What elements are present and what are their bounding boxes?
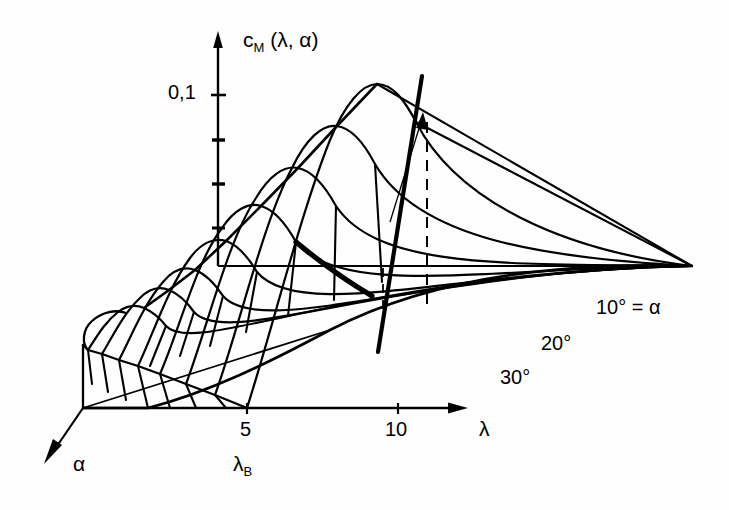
- vertical-axis: [211, 31, 226, 266]
- figure-canvas: cM (λ, α) 0,1 5 10 λ λB α 10° = α 20° 30…: [0, 0, 729, 510]
- lambda-b-main: λ: [233, 452, 244, 475]
- vanishing-rays: [377, 84, 692, 266]
- operating-line: [378, 76, 422, 352]
- hump-alpha-10: [247, 84, 692, 408]
- y-axis-title-main: c: [243, 28, 254, 51]
- lambda-b-sub: B: [244, 464, 253, 479]
- y-axis-title-sub: M: [254, 40, 265, 55]
- y-tick-label-0-1: 0,1: [168, 81, 196, 104]
- surface-mesh: [83, 84, 692, 408]
- back-cap: [84, 311, 126, 350]
- angle-label-30: 30°: [500, 366, 530, 389]
- hump-alpha-15: [215, 126, 692, 395]
- angle-label-20: 20°: [541, 332, 571, 355]
- lambda-b-label: λB: [233, 452, 252, 479]
- x-tick-label-10: 10: [385, 418, 407, 441]
- y-axis-title-args: (λ, α): [264, 28, 318, 51]
- surface-plot-svg: [0, 0, 729, 510]
- alpha-axis-label: α: [73, 452, 85, 476]
- angle-label-10: 10° = α: [596, 296, 661, 319]
- y-axis-title: cM (λ, α): [243, 28, 318, 55]
- x-tick-label-5: 5: [240, 418, 251, 441]
- x-axis-label-lambda: λ: [479, 417, 490, 441]
